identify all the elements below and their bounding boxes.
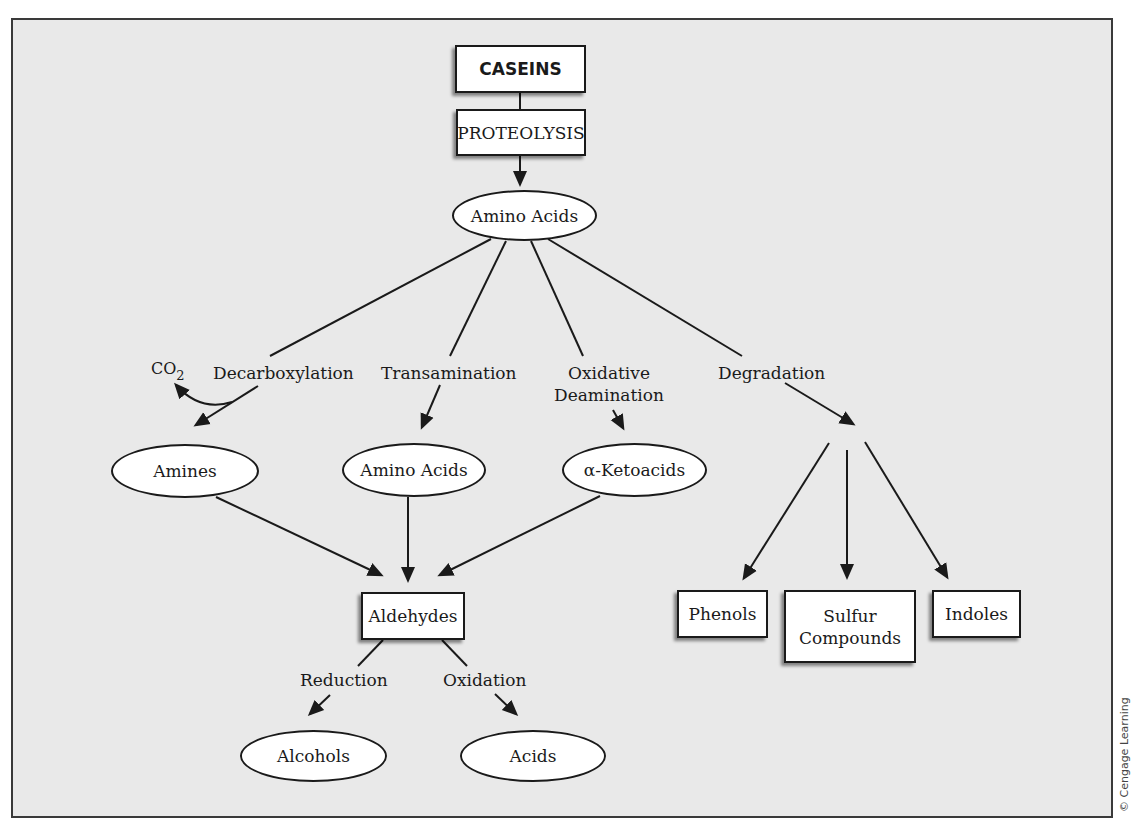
edge-ketoacids-aldehydes — [440, 496, 600, 575]
process-reduction: Reduction — [300, 669, 388, 691]
process-oxidative-line2: Deamination — [550, 384, 668, 406]
edge-amines-aldehydes — [216, 497, 381, 575]
edge-aminoacids-transamination — [450, 241, 506, 356]
node-alcohols: Alcohols — [240, 730, 387, 782]
node-amino-acids-mid: Amino Acids — [342, 443, 486, 497]
node-amino-acids-mid-label: Amino Acids — [360, 459, 467, 481]
node-phenols-label: Phenols — [689, 603, 757, 625]
node-caseins: CASEINS — [455, 45, 586, 93]
node-amino-acids-top: Amino Acids — [452, 190, 597, 241]
node-acids: Acids — [460, 730, 606, 782]
node-amino-acids-top-label: Amino Acids — [471, 205, 578, 227]
node-proteolysis: PROTEOLYSIS — [456, 109, 586, 156]
co2-subscript: 2 — [176, 368, 184, 383]
process-transamination: Transamination — [381, 362, 517, 384]
node-aldehydes-label: Aldehydes — [369, 605, 458, 627]
edge-aldehydes-oxidation — [442, 640, 467, 666]
node-sulfur-compounds: Sulfur Compounds — [784, 590, 916, 663]
node-aldehydes: Aldehydes — [361, 592, 465, 640]
edge-decarboxylation-co2 — [176, 385, 232, 405]
edge-aminoacids-degradation — [548, 239, 742, 356]
process-decarboxylation: Decarboxylation — [213, 362, 354, 384]
process-oxidation: Oxidation — [443, 669, 526, 691]
edge-degradation-branch — [785, 383, 853, 424]
edge-aminoacids-oxidative — [531, 241, 583, 356]
edge-oxidative-ketoacids — [613, 410, 623, 428]
edge-reduction-alcohols — [310, 695, 330, 714]
edge-transamination-aminoacids — [422, 385, 440, 427]
edge-aldehydes-reduction — [358, 640, 383, 666]
node-caseins-label: CASEINS — [479, 58, 561, 80]
edge-branch-indoles — [865, 442, 947, 577]
node-phenols: Phenols — [677, 590, 768, 638]
co2-label: CO2 — [151, 358, 185, 385]
node-ketoacids-label: α-Ketoacids — [584, 459, 685, 481]
edge-oxidation-acids — [495, 694, 516, 714]
node-proteolysis-label: PROTEOLYSIS — [457, 122, 584, 144]
process-degradation: Degradation — [718, 362, 825, 384]
copyright-credit: © Cengage Learning — [1118, 697, 1131, 812]
node-sulfur-line2: Compounds — [799, 627, 901, 649]
node-sulfur-line1: Sulfur — [823, 605, 876, 627]
node-amines: Amines — [111, 444, 259, 498]
edge-branch-phenols — [744, 443, 829, 578]
node-indoles: Indoles — [932, 590, 1021, 638]
process-oxidative-line1: Oxidative — [561, 362, 657, 384]
node-amines-label: Amines — [153, 460, 217, 482]
node-alcohols-label: Alcohols — [277, 745, 350, 767]
co2-main: CO — [151, 359, 176, 378]
node-indoles-label: Indoles — [945, 603, 1008, 625]
edge-decarboxylation-amines — [196, 386, 258, 425]
node-acids-label: Acids — [510, 745, 557, 767]
node-ketoacids: α-Ketoacids — [562, 443, 707, 497]
